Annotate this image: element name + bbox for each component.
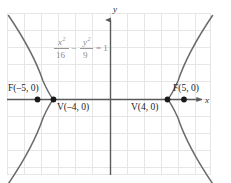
- equation-numerator-left: x: [57, 37, 62, 47]
- equation-numerator-left-exponent: 2: [63, 36, 66, 42]
- equation-equals-one: = 1: [96, 43, 108, 53]
- vertex-right-point: [165, 97, 171, 103]
- focus-right-point: [181, 97, 187, 103]
- equation-numerator-right: y: [82, 37, 87, 47]
- focus-right-label: F(5, 0): [173, 83, 199, 94]
- focus-left-point: [35, 97, 41, 103]
- equation-denominator-right: 9: [83, 50, 88, 60]
- vertex-right-label: V(4, 0): [131, 102, 158, 113]
- focus-left-label: F(–5, 0): [8, 83, 39, 94]
- equation-denominator-left: 16: [56, 50, 66, 60]
- vertex-left-label: V(–4, 0): [57, 102, 89, 113]
- x-axis-label: x: [204, 95, 209, 105]
- y-axis-label: y: [112, 4, 117, 14]
- vertex-left-point: [51, 97, 57, 103]
- equation-numerator-right-exponent: 2: [88, 36, 91, 42]
- hyperbola-figure: x y x 2 16 − y 2 9 = 1 F(–5, 0) V(–4, 0)…: [0, 0, 231, 183]
- equation-operator: −: [71, 43, 76, 53]
